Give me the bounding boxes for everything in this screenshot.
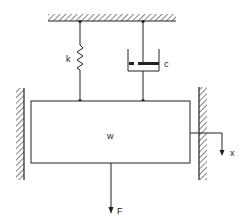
- left-wall: [16, 88, 24, 180]
- spring-label: k: [66, 54, 71, 64]
- displacement-arrow: [190, 133, 225, 156]
- spring-mass-damper-diagram: k c w x F: [0, 0, 249, 224]
- ceiling-support: [48, 14, 176, 21]
- spring: [77, 20, 83, 102]
- force-arrow: [109, 163, 114, 214]
- damper-label: c: [164, 59, 169, 69]
- mass-label: w: [106, 131, 114, 141]
- damper: [128, 20, 159, 102]
- force-label: F: [117, 206, 123, 216]
- displacement-label: x: [230, 148, 235, 158]
